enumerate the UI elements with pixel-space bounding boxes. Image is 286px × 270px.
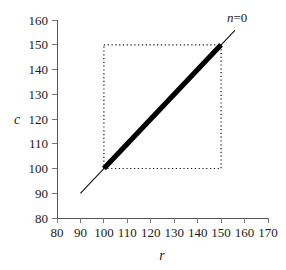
series-line-n0-thick bbox=[104, 45, 221, 169]
x-tick-label-110: 110 bbox=[118, 225, 137, 240]
y-tick-label-120: 120 bbox=[29, 112, 49, 127]
y-tick-label-110: 110 bbox=[29, 136, 48, 151]
chart-figure: 80 90 100 110 120 130 140 150 160 80 9 bbox=[0, 0, 286, 270]
x-axis-ticks bbox=[57, 218, 268, 223]
y-tick-label-140: 140 bbox=[29, 62, 49, 77]
x-axis-tick-labels: 80 90 100 110 120 130 140 150 160 170 bbox=[51, 225, 278, 240]
curve-label-n0: n=0 bbox=[227, 10, 247, 25]
y-tick-label-80: 80 bbox=[35, 211, 48, 226]
y-tick-label-160: 160 bbox=[29, 13, 49, 28]
y-axis-ticks bbox=[52, 20, 57, 218]
x-tick-label-130: 130 bbox=[164, 225, 184, 240]
y-tick-label-150: 150 bbox=[29, 37, 49, 52]
x-tick-label-150: 150 bbox=[211, 225, 231, 240]
y-axis-tick-labels: 80 90 100 110 120 130 140 150 160 bbox=[29, 13, 49, 226]
x-tick-label-100: 100 bbox=[94, 225, 114, 240]
x-tick-label-140: 140 bbox=[188, 225, 208, 240]
x-tick-label-170: 170 bbox=[258, 225, 278, 240]
curve-label-n0-rest: =0 bbox=[234, 10, 248, 25]
x-tick-label-120: 120 bbox=[141, 225, 161, 240]
y-tick-label-130: 130 bbox=[29, 87, 49, 102]
y-tick-label-90: 90 bbox=[35, 186, 48, 201]
x-tick-label-90: 90 bbox=[74, 225, 87, 240]
y-tick-label-100: 100 bbox=[29, 161, 49, 176]
x-tick-label-80: 80 bbox=[51, 225, 64, 240]
x-axis-title: r bbox=[159, 248, 165, 263]
x-tick-label-160: 160 bbox=[235, 225, 255, 240]
y-axis-title: c bbox=[14, 112, 21, 127]
line-chart: 80 90 100 110 120 130 140 150 160 80 9 bbox=[0, 0, 286, 270]
